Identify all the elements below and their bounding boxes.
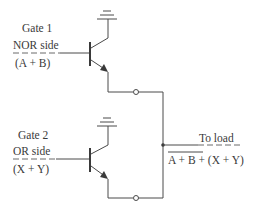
ground-icon: [97, 118, 117, 126]
ground-icon: [97, 11, 117, 19]
output-terminal-1: [134, 90, 139, 95]
emitter-arrow-icon: [100, 64, 108, 72]
output-terminal-2: [134, 196, 139, 201]
transistor-1: [90, 11, 163, 95]
gate2-side-label: OR side: [13, 145, 50, 157]
gate2-title: Gate 2: [18, 129, 49, 141]
gate1-side-label: NOR side: [13, 39, 59, 51]
output-expression: A + B + (X + Y): [168, 154, 244, 167]
circuit-diagram: Gate 1 NOR side (A + B) Gate 2 OR side (…: [0, 0, 274, 211]
emitter-arrow-icon: [100, 171, 108, 179]
output-label: To load: [199, 132, 234, 144]
gate2-expression: (X + Y): [13, 163, 49, 176]
gate1-title: Gate 1: [22, 22, 53, 34]
transistor-2: [90, 118, 163, 201]
gate1-expression: (A + B): [15, 57, 50, 70]
